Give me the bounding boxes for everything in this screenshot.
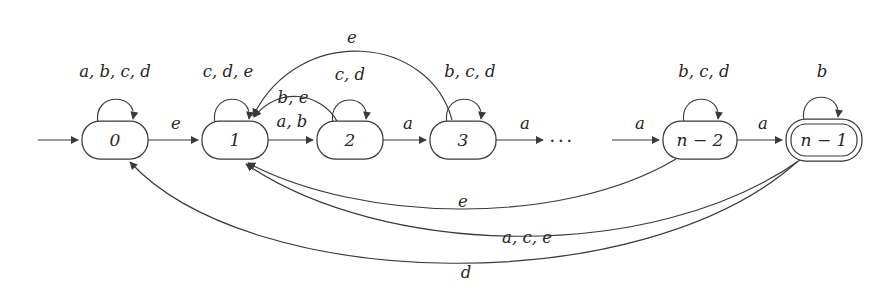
diagram-svg: e a, b a a a a ··· a, b, c, d (0, 0, 882, 304)
transition-1-2: a, b (268, 112, 313, 141)
state-0-label: 0 (110, 130, 121, 150)
state-3-label: 3 (458, 130, 469, 150)
transition-3-1-label: e (347, 28, 357, 47)
state-2-label: 2 (344, 130, 356, 150)
state-n-2[interactable]: n − 2 (663, 121, 737, 159)
transition-n1-0: d (130, 162, 797, 282)
self-loop-1: c, d, e (203, 62, 254, 124)
state-1-label: 1 (230, 130, 241, 150)
transition-2-1-label: b, e (278, 88, 309, 107)
state-n-1[interactable]: n − 1 (786, 119, 862, 161)
transition-n1-0-label: d (461, 263, 472, 282)
self-loop-n1: b (803, 62, 838, 122)
self-loop-3: b, c, d (444, 62, 495, 124)
transition-2-3: a (383, 114, 426, 141)
self-loop-2-label: c, d (335, 65, 365, 84)
transition-2-3-label: a (403, 114, 413, 133)
self-loop-3-label: b, c, d (444, 62, 495, 81)
transition-n1-1-label: a, c, e (502, 228, 552, 247)
transition-n2-n1-label: a (758, 114, 768, 133)
state-3[interactable]: 3 (430, 121, 496, 159)
ellipsis-label: ··· (549, 129, 575, 151)
state-n-2-label: n − 2 (677, 130, 724, 150)
transition-1-2-label: a, b (277, 112, 308, 131)
transition-n2-1-label: e (458, 192, 468, 211)
transition-n2-n1: a (737, 114, 782, 141)
self-loop-n1-label: b (817, 62, 828, 81)
transition-n2-1: e (248, 159, 676, 211)
self-loop-n2: b, c, d (678, 62, 729, 124)
self-loop-n2-label: b, c, d (678, 62, 729, 81)
automaton-diagram: e a, b a a a a ··· a, b, c, d (0, 0, 882, 304)
state-0[interactable]: 0 (82, 121, 148, 159)
self-loop-2: c, d (332, 65, 366, 124)
transition-0-1: e (148, 114, 198, 141)
state-n-1-label: n − 1 (801, 130, 848, 150)
transition-ellipsis-n2-label: a (635, 114, 645, 133)
transition-0-1-label: e (171, 114, 181, 133)
self-loop-0-label: a, b, c, d (79, 62, 151, 81)
transition-3-ellipsis-label: a (520, 114, 530, 133)
transition-ellipsis-n2: a (612, 114, 659, 141)
transition-3-ellipsis: a (496, 114, 543, 141)
transition-n1-1: a, c, e (246, 160, 800, 247)
self-loop-1-label: c, d, e (203, 62, 254, 81)
state-2[interactable]: 2 (317, 121, 383, 159)
state-1[interactable]: 1 (202, 121, 268, 159)
self-loop-0: a, b, c, d (79, 62, 151, 124)
